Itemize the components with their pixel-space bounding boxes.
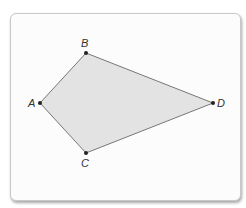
vertex-label-d: D <box>217 97 225 109</box>
vertex-label-a: A <box>27 97 35 109</box>
vertex-point-d <box>211 101 215 105</box>
kite-diagram: A B C D <box>0 0 246 208</box>
vertex-label-b: B <box>81 37 88 49</box>
kite-polygon <box>40 53 213 153</box>
vertex-point-b <box>84 51 88 55</box>
vertex-point-c <box>84 151 88 155</box>
vertex-label-c: C <box>81 157 89 169</box>
vertex-point-a <box>38 101 42 105</box>
